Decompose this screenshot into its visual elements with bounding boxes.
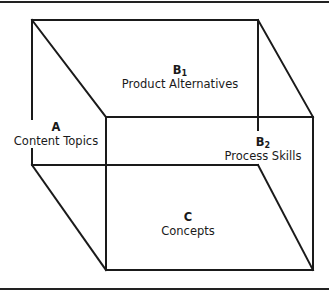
face-letter: A bbox=[14, 120, 98, 134]
face-label-a: A Content Topics bbox=[13, 120, 99, 148]
face-name: Concepts bbox=[161, 224, 215, 238]
face-letter: B1 bbox=[122, 63, 238, 77]
top-left-diagonal bbox=[32, 20, 106, 117]
face-label-b2: B2 Process Skills bbox=[224, 135, 303, 163]
bottom-left-diagonal bbox=[32, 165, 106, 270]
face-name: Process Skills bbox=[225, 149, 302, 163]
face-name: Content Topics bbox=[14, 134, 98, 148]
top-right-diagonal bbox=[258, 20, 313, 117]
bottom-right-diagonal bbox=[258, 165, 313, 270]
face-label-c: C Concepts bbox=[160, 210, 216, 238]
face-letter: C bbox=[161, 210, 215, 224]
face-name: Product Alternatives bbox=[122, 77, 238, 91]
face-label-b1: B1 Product Alternatives bbox=[121, 63, 239, 91]
face-letter: B2 bbox=[225, 135, 302, 149]
